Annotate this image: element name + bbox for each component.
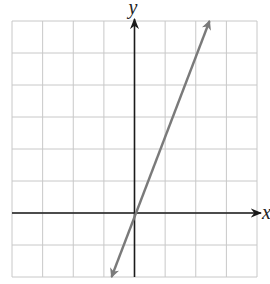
axes: [12, 19, 261, 277]
y-axis-label: y: [127, 0, 138, 19]
coordinate-plane: x y: [0, 0, 270, 284]
x-axis-label: x: [261, 201, 270, 223]
